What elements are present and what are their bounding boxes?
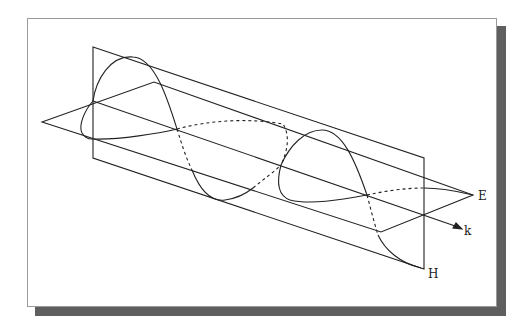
label-k: k <box>464 224 472 238</box>
em-wave-diagram: E k H <box>0 0 531 332</box>
label-h: H <box>428 267 438 281</box>
e-wave-solid-3 <box>281 130 367 195</box>
h-wave-solid-3 <box>424 188 473 195</box>
e-wave-dashed-1 <box>177 129 192 170</box>
e-wave-solid-2 <box>192 170 253 200</box>
e-wave-solid-4 <box>378 235 421 268</box>
h-wave-dashed-1 <box>177 121 287 165</box>
h-wave-dashed-2 <box>367 188 424 195</box>
e-wave-solid-1 <box>93 57 177 129</box>
k-axis <box>93 101 458 227</box>
h-wave-solid-2 <box>278 165 367 202</box>
k-arrowhead <box>453 223 462 229</box>
e-wave-dashed-2 <box>253 165 281 188</box>
label-e: E <box>478 189 487 203</box>
h-wave-solid-1 <box>81 101 177 139</box>
